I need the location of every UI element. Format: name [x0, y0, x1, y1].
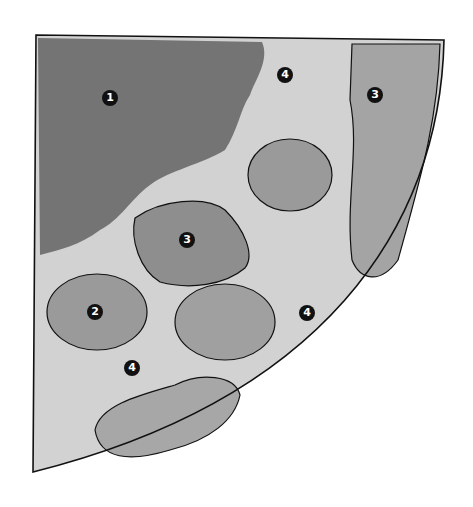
- plant-marker-3: 3: [179, 232, 195, 248]
- garden-plan-drawing: [0, 0, 473, 507]
- plant-marker-1: 1: [102, 90, 118, 106]
- region-3-top-right: [350, 44, 440, 277]
- region-spiky-shrub-center: [175, 284, 275, 360]
- plant-marker-4: 4: [277, 67, 293, 83]
- plant-marker-3: 3: [367, 87, 383, 103]
- region-spiky-shrub-top: [248, 139, 332, 211]
- plant-marker-4: 4: [124, 360, 140, 376]
- plant-marker-4: 4: [299, 305, 315, 321]
- plant-marker-2: 2: [87, 304, 103, 320]
